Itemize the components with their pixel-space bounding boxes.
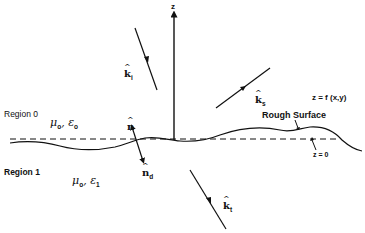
- region-1-eps-sub: 1: [96, 181, 100, 188]
- surface-equation-label: z = f (x,y): [312, 94, 346, 102]
- scattered-vector-label: ks: [255, 90, 266, 108]
- transmitted-symbol: k: [223, 201, 230, 211]
- normal-down-subscript: d: [149, 173, 153, 180]
- scattered-subscript: s: [262, 100, 266, 107]
- rough-surface-scattering-diagram: z ki ks kt n nd z = f (x,y) Rough Surfac…: [0, 0, 365, 233]
- mean-plane-label: z = 0: [313, 151, 328, 158]
- region-1-label: Region 1: [4, 168, 40, 177]
- transmitted-subscript: t: [230, 206, 232, 213]
- incident-symbol: k: [124, 69, 131, 79]
- region-1-params: μo, ε1: [72, 171, 100, 189]
- region-0-params: μo, εo: [50, 113, 78, 131]
- region-0-eps-sub: o: [74, 123, 78, 130]
- normal-down-symbol: n: [142, 168, 149, 178]
- z-axis-label: z: [171, 3, 175, 11]
- normal-symbol: n: [127, 122, 134, 132]
- rough-surface-label: Rough Surface: [262, 111, 326, 120]
- incident-subscript: i: [131, 74, 133, 81]
- scattered-symbol: k: [255, 95, 262, 105]
- normal-down-vector-label: nd: [142, 163, 153, 181]
- incident-vector-label: ki: [124, 64, 133, 82]
- normal-vector-label: n: [127, 117, 134, 133]
- region-0-label: Region 0: [4, 110, 38, 119]
- transmitted-arrowhead: [206, 197, 211, 204]
- transmitted-vector-label: kt: [223, 196, 232, 214]
- rough-surface-pointer: [295, 120, 298, 128]
- mean-plane-pointer: [312, 140, 316, 150]
